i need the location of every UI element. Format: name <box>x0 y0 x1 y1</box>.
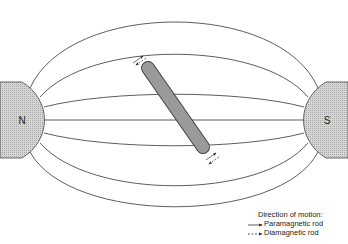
south-pole-label: S <box>324 115 331 126</box>
legend-item-diamagnetic: Diamagnetic rod <box>264 228 319 237</box>
south-pole: S <box>304 82 348 158</box>
legend: Direction of motion: Paramagnetic rod Di… <box>248 210 323 237</box>
magnetic-field-diagram: N S <box>0 0 348 244</box>
legend-item-paramagnetic: Paramagnetic rod <box>264 219 323 228</box>
rod <box>148 68 203 147</box>
north-pole-label: N <box>18 115 25 126</box>
north-pole: N <box>0 82 45 158</box>
legend-title: Direction of motion: <box>248 210 323 219</box>
